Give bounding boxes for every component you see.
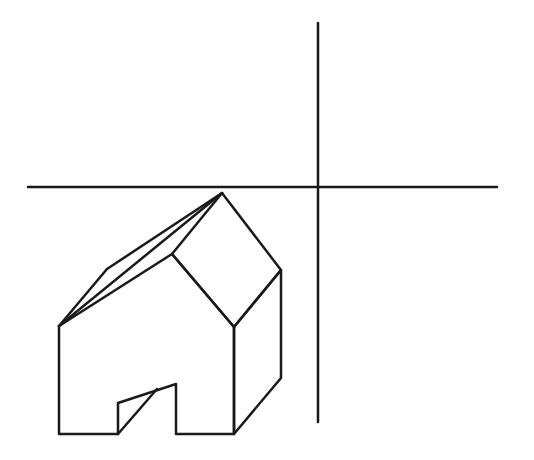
- house-drawing: [0, 0, 534, 460]
- house-roof-right-plane: [172, 193, 281, 327]
- house-roof-diagonal-edge: [59, 193, 222, 326]
- house-right-wall: [234, 270, 281, 434]
- house-front-face: [59, 254, 234, 434]
- diagram-canvas: [0, 0, 534, 460]
